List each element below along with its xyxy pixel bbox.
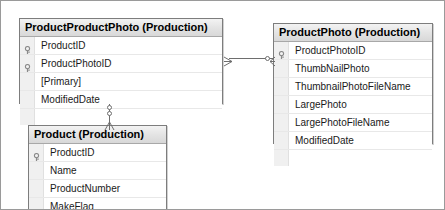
entity-body-product-product-photo: ProductID ProductPhotoID [Primary] [20, 37, 222, 125]
entity-header-product-photo[interactable]: ProductPhoto (Production) [274, 24, 432, 42]
crows-foot-icon [270, 53, 275, 71]
field-label: [Primary] [41, 73, 81, 90]
row-gutter [274, 114, 289, 131]
field-row[interactable]: MakeFlag [29, 198, 166, 210]
entity-table-product[interactable]: Product (Production) ProductID Name [28, 125, 167, 210]
field-row[interactable]: ModifiedDate [20, 91, 222, 109]
entity-body-product-photo: ProductPhotoID ThumbNailPhoto ThumbnailP… [274, 42, 432, 166]
row-gutter [20, 73, 35, 90]
field-label: ModifiedDate [41, 91, 100, 108]
field-row[interactable]: LargePhotoFileName [274, 114, 432, 132]
crows-foot-icon [104, 117, 115, 135]
primary-key-icon [32, 148, 41, 157]
diagram-canvas[interactable]: ProductProductPhoto (Production) Product… [0, 0, 445, 210]
optional-ring-icon [107, 105, 112, 110]
field-row-empty[interactable] [20, 109, 222, 125]
field-label: ModifiedDate [295, 132, 354, 149]
entity-header-product[interactable]: Product (Production) [29, 126, 166, 144]
primary-key-icon [23, 59, 32, 68]
field-label: LargePhoto [295, 96, 347, 113]
field-row[interactable]: ThumbnailPhotoFileName [274, 78, 432, 96]
crows-foot-icon [223, 53, 232, 71]
field-row-empty[interactable] [274, 150, 432, 166]
row-gutter [29, 162, 44, 179]
field-label: ProductPhotoID [41, 55, 112, 72]
field-label: ProductID [41, 37, 85, 54]
entity-table-product-photo[interactable]: ProductPhoto (Production) ProductPhotoID… [273, 23, 433, 144]
row-gutter [20, 109, 35, 125]
field-row[interactable]: ThumbNailPhoto [274, 60, 432, 78]
field-label: ProductID [50, 144, 94, 161]
field-row[interactable]: ProductID [29, 144, 166, 162]
entity-table-product-product-photo[interactable]: ProductProductPhoto (Production) Product… [19, 18, 223, 104]
row-gutter [20, 91, 35, 108]
field-row[interactable]: ProductPhotoID [274, 42, 432, 60]
entity-header-product-product-photo[interactable]: ProductProductPhoto (Production) [20, 19, 222, 37]
field-label: ProductPhotoID [295, 42, 366, 59]
field-label: ThumbNailPhoto [295, 60, 369, 77]
field-row[interactable]: ProductPhotoID [20, 55, 222, 73]
field-row[interactable]: ModifiedDate [274, 132, 432, 150]
optional-ring-icon [107, 111, 112, 116]
field-label: ThumbnailPhotoFileName [295, 78, 411, 95]
row-gutter [29, 180, 44, 197]
field-row[interactable]: Name [29, 162, 166, 180]
field-row[interactable]: ProductID [20, 37, 222, 55]
primary-key-icon [277, 46, 286, 55]
field-label: LargePhotoFileName [295, 114, 390, 131]
field-row[interactable]: LargePhoto [274, 96, 432, 114]
field-label: ProductNumber [50, 180, 120, 197]
entity-body-product: ProductID Name ProductNumber MakeFlag [29, 144, 166, 210]
row-gutter [274, 132, 289, 149]
field-row[interactable]: ProductNumber [29, 180, 166, 198]
field-row[interactable]: [Primary] [20, 73, 222, 91]
primary-key-icon [23, 41, 32, 50]
row-gutter [274, 150, 289, 166]
row-gutter [274, 60, 289, 77]
field-label: Name [50, 162, 77, 179]
row-gutter [29, 198, 44, 210]
field-label: MakeFlag [50, 198, 94, 210]
row-gutter [274, 78, 289, 95]
row-gutter [274, 96, 289, 113]
